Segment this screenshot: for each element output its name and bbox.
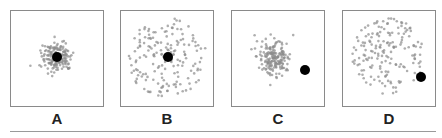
- sample-dot: [187, 77, 190, 80]
- sample-dot: [136, 78, 139, 81]
- sample-dot: [191, 40, 194, 43]
- sample-dot: [53, 71, 56, 74]
- sample-dot: [195, 81, 198, 84]
- sample-dot: [160, 41, 163, 44]
- sample-dot: [67, 63, 70, 66]
- sample-dot: [395, 90, 398, 93]
- sample-dot: [377, 53, 380, 56]
- sample-dot: [47, 46, 50, 49]
- sample-dot: [194, 63, 197, 66]
- sample-dot: [170, 44, 173, 47]
- panel-c: [231, 10, 325, 107]
- sample-dot: [397, 27, 400, 30]
- sample-dot: [185, 89, 188, 92]
- sample-dot: [139, 71, 142, 74]
- sample-dot: [177, 92, 180, 95]
- sample-dot: [137, 46, 140, 49]
- sample-dot: [182, 38, 185, 41]
- sample-dot: [279, 67, 282, 70]
- sample-dot: [143, 88, 146, 91]
- sample-dot: [135, 61, 138, 64]
- sample-dot: [397, 32, 400, 35]
- sample-dot: [194, 41, 197, 44]
- sample-dot: [275, 77, 278, 80]
- sample-dot: [381, 55, 384, 58]
- sample-dot: [134, 50, 137, 53]
- sample-dot: [283, 59, 286, 62]
- sample-dot: [390, 17, 393, 20]
- sample-dot: [271, 51, 274, 54]
- sample-dot: [65, 42, 68, 45]
- sample-dot: [412, 79, 415, 82]
- sample-dot: [391, 41, 394, 44]
- sample-dot: [45, 58, 48, 61]
- sample-dot: [410, 30, 413, 33]
- sample-dot: [138, 33, 141, 36]
- sample-dot: [384, 85, 387, 88]
- sample-dot: [163, 79, 166, 82]
- sample-dot: [380, 71, 383, 74]
- sample-dot: [377, 40, 380, 43]
- sample-dot: [406, 70, 409, 73]
- sample-dot: [378, 35, 381, 38]
- sample-dot: [267, 66, 270, 69]
- sample-dot: [266, 47, 269, 50]
- sample-dot: [155, 52, 158, 55]
- sample-dot: [29, 65, 32, 68]
- sample-dot: [379, 31, 382, 34]
- sample-dot: [143, 42, 146, 45]
- sample-dot: [360, 44, 363, 47]
- target-dot-icon: [300, 65, 310, 75]
- sample-dot: [292, 34, 295, 37]
- sample-dot: [47, 67, 50, 70]
- sample-dot: [157, 82, 160, 85]
- sample-dot: [62, 63, 65, 66]
- bottom-divider: [10, 131, 436, 132]
- sample-dot: [66, 49, 69, 52]
- sample-dot: [390, 51, 393, 54]
- sample-dot: [165, 35, 168, 38]
- sample-dot: [147, 90, 150, 93]
- sample-dot: [355, 49, 358, 52]
- sample-dot: [154, 44, 157, 47]
- sample-dot: [259, 53, 262, 56]
- sample-dot: [277, 60, 280, 63]
- panel-label-c: C: [231, 110, 325, 127]
- sample-dot: [365, 35, 368, 38]
- sample-dot: [130, 72, 133, 75]
- sample-dot: [155, 41, 158, 44]
- sample-dot: [387, 31, 390, 34]
- sample-dot: [184, 54, 187, 57]
- sample-dot: [414, 72, 417, 75]
- sample-dot: [183, 43, 186, 46]
- sample-dot: [141, 75, 144, 78]
- sample-dot: [67, 67, 70, 70]
- sample-dot: [357, 40, 360, 43]
- sample-dot: [199, 69, 202, 72]
- sample-dot: [193, 72, 196, 75]
- sample-dot: [200, 57, 203, 60]
- sample-dot: [44, 64, 47, 67]
- sample-dot: [197, 44, 200, 47]
- sample-dot: [364, 26, 367, 29]
- sample-dot: [174, 83, 177, 86]
- sample-dot: [363, 45, 366, 48]
- sample-dot: [145, 79, 148, 82]
- sample-dot: [276, 57, 279, 60]
- sample-dot: [382, 40, 385, 43]
- sample-dot: [391, 31, 394, 34]
- sample-dot: [266, 58, 269, 61]
- panel-label-a: A: [10, 110, 104, 127]
- sample-dot: [365, 58, 368, 61]
- sample-dot: [370, 36, 373, 39]
- sample-dot: [362, 77, 365, 80]
- sample-dot: [161, 27, 164, 30]
- sample-dot: [269, 84, 272, 87]
- sample-dot: [171, 26, 174, 29]
- sample-dot: [146, 76, 149, 79]
- sample-dot: [383, 49, 386, 52]
- sample-dot: [353, 59, 356, 62]
- sample-dot: [265, 68, 268, 71]
- sample-dot: [275, 65, 278, 68]
- sample-dot: [368, 40, 371, 43]
